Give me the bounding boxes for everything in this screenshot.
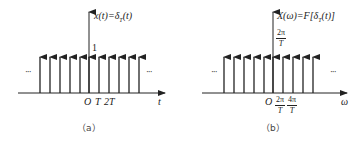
panel-b-ellipsis-left: ··· [211,67,217,77]
panel-b-height-den: T [279,39,283,48]
panel-a-tick-origin: O [84,97,91,107]
panel-b-title-lhs: X(ω)=F[δ [277,10,318,21]
panel-a-ellipsis-right: ··· [146,67,152,77]
panel-b-height-label: 2π T [276,29,286,48]
panel-a-height-label: 1 [92,43,97,53]
panel-a-title-rhs: (t) [123,10,132,21]
panel-b-ellipsis-right: ··· [330,67,336,77]
panel-a-x-axis-label: t [158,97,161,107]
panel-b-tick-4pi-over-T: 4π T [287,96,297,115]
panel-b-tick-2pi-over-T: 2π T [275,96,285,115]
panel-b-tick-4pi-den: T [290,106,294,115]
panel-b-title-rhs: (t)] [322,10,335,21]
panel-b-x-axis-label: ω [341,97,348,107]
panel-b-impulse-train [224,57,313,93]
panel-a-impulse-train [40,57,139,93]
panel-b-tick-2pi-den: T [278,106,282,115]
panel-b-tick-2pi-num: 2π [275,96,285,106]
panel-a-tick-T: T [95,97,101,107]
panel-b-height-num: 2π [276,29,286,39]
panel-b-title: X(ω)=F[δT(t)] [277,11,335,23]
panel-a-title-lhs: x(t)=δ [94,10,119,21]
panel-a-tick-2T: 2T [104,97,115,107]
panel-b-caption: （b） [261,121,285,134]
panel-b-plot [202,12,347,93]
panel-b-tick-4pi-num: 4π [287,96,297,106]
panel-a-title: x(t)=δT(t) [94,11,132,23]
panel-b-tick-origin: O [265,97,272,107]
panel-a-ellipsis-left: ··· [25,67,31,77]
panel-a-caption: （a） [77,121,101,134]
